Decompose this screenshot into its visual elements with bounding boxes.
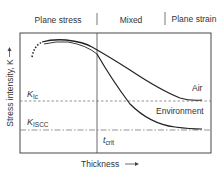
environment-label: Environment [156,106,204,116]
stress-thickness-diagram: Plane stress Mixed Plane strain KIc KISC… [0,0,222,173]
tcrit-label: tcrit [103,135,114,146]
peak-curve [42,40,92,47]
plot-frame [20,33,211,153]
initial-rise-dotted [32,42,42,57]
x-axis-label: Thickness [81,159,119,169]
air-label: Air [192,83,203,93]
region-mixed-label: Mixed [120,15,143,25]
region-plane-strain-label: Plane strain [172,14,217,24]
y-axis-label: Stress intensity, K [5,59,15,127]
region-plane-stress-label: Plane stress [35,15,82,25]
kic-label: KIc [27,89,39,100]
environment-curve [97,54,202,129]
peak-curve-2 [44,42,97,54]
x-arrow-head-icon [135,162,139,166]
kiscc-label: KISCC [27,117,49,128]
y-arrow-head-icon [8,47,12,51]
